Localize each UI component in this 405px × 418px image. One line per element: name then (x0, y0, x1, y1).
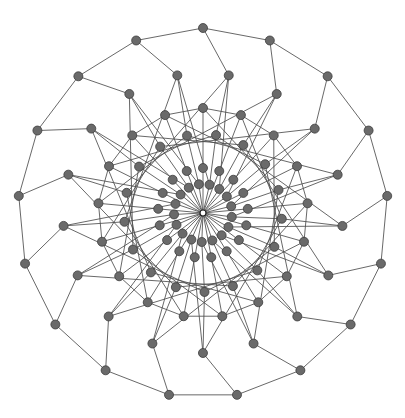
graph-node-ring3 (105, 162, 114, 171)
graph-edge (274, 247, 328, 276)
graph-node-ring3 (143, 298, 152, 307)
graph-node-ring5 (243, 204, 252, 213)
graph-node-ring3 (236, 111, 245, 120)
graph-node-ring4 (277, 214, 286, 223)
graph-node-ring5 (155, 221, 164, 230)
graph-edge (328, 264, 381, 276)
graph-node-outer (74, 72, 83, 81)
graph-node-outer (265, 36, 274, 45)
graph-edge (136, 28, 203, 40)
graph-node-ring4 (135, 162, 144, 171)
graph-edge (152, 287, 175, 343)
graph-edge (243, 145, 328, 275)
hub-node (200, 210, 206, 216)
graph-edge (152, 344, 169, 395)
graph-edge (55, 275, 77, 324)
graph-node-outer (376, 259, 385, 268)
graph-node-outer (383, 191, 392, 200)
graph-edge (78, 40, 136, 76)
graph-node-ring2 (324, 271, 333, 280)
graph-node-ring4 (270, 242, 279, 251)
graph-edge (78, 275, 233, 286)
graph-edge (25, 264, 55, 325)
graph-node-ring3 (218, 312, 227, 321)
graph-node-ring3 (128, 131, 137, 140)
graph-node-ring4 (122, 188, 131, 197)
graph-edge (216, 75, 229, 135)
graph-edge (177, 75, 187, 135)
graph-node-ring6 (208, 236, 217, 245)
graph-edge (148, 302, 184, 316)
graph-node-ring3 (269, 131, 278, 140)
graph-node-ring4 (146, 268, 155, 277)
graph-node-ring4 (171, 283, 180, 292)
graph-node-ring5 (215, 167, 224, 176)
graph-edge (342, 196, 387, 226)
graph-node-outer (132, 36, 141, 45)
graph-node-ring5 (163, 236, 172, 245)
graph-edge (287, 242, 304, 277)
graph-node-ring2 (310, 124, 319, 133)
graph-node-ring4 (200, 287, 209, 296)
graph-edge (55, 324, 105, 370)
graph-edge (328, 76, 369, 130)
graph-edge (297, 316, 350, 324)
graph-edge (233, 286, 254, 343)
graph-edge (338, 131, 369, 175)
graph-node-ring5 (182, 167, 191, 176)
graph-edge (102, 242, 119, 277)
graph-node-ring6 (215, 185, 224, 194)
graph-node-ring6 (187, 235, 196, 244)
graph-edge (106, 370, 169, 395)
graph-node-ring2 (338, 221, 347, 230)
graph-node-ring6 (178, 229, 187, 238)
graph-edge (136, 40, 177, 75)
graph-node-ring6 (170, 210, 179, 219)
graph-node-ring2 (249, 339, 258, 348)
graph-node-ring2 (125, 89, 134, 98)
graph-node-ring6 (217, 231, 226, 240)
graph-node-ring4 (253, 266, 262, 275)
graph-edge (129, 94, 133, 250)
graph-node-ring5 (168, 175, 177, 184)
graph-edge (279, 175, 338, 190)
graph-edge (270, 40, 277, 93)
graph-node-ring5 (154, 204, 163, 213)
graph-edge (211, 257, 222, 316)
graph-edge (351, 264, 381, 325)
graph-node-ring2 (73, 271, 82, 280)
graph-edge (241, 115, 274, 135)
graph-node-ring6 (172, 220, 181, 229)
graph-edge (203, 292, 205, 353)
graph-edge (304, 203, 308, 241)
graph-edge (381, 196, 387, 264)
graph-node-ring2 (148, 339, 157, 348)
graph-node-outer (33, 126, 42, 135)
graph-edge (78, 250, 133, 276)
graph-node-ring6 (227, 212, 236, 221)
graph-node-ring5 (229, 175, 238, 184)
graph-edge (315, 76, 328, 128)
graph-edge (300, 324, 350, 370)
graph-edge (270, 40, 328, 76)
graph-node-ring3 (282, 272, 291, 281)
graph-edge (254, 344, 301, 371)
graph-node-ring3 (161, 111, 170, 120)
graph-node-ring5 (190, 253, 199, 262)
graph-edge (139, 94, 277, 167)
graph-node-ring5 (239, 188, 248, 197)
graph-node-ring5 (199, 164, 208, 173)
graph-node-ring5 (158, 188, 167, 197)
graph-node-ring4 (212, 131, 221, 140)
graph-node-ring3 (254, 298, 263, 307)
graph-node-ring2 (333, 170, 342, 179)
graph-node-ring4 (156, 142, 165, 151)
graph-node-ring5 (175, 247, 184, 256)
graph-node-ring6 (171, 199, 180, 208)
graph-node-ring5 (222, 247, 231, 256)
graph-node-ring3 (299, 237, 308, 246)
graph-node-ring4 (261, 160, 270, 169)
graph-edge (203, 28, 270, 40)
graph-node-ring6 (184, 183, 193, 192)
graph-node-ring6 (205, 180, 214, 189)
